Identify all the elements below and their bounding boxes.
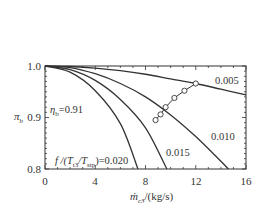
ytick-label-0.8: 0.8 (27, 163, 41, 175)
curve-0.020 (45, 66, 138, 169)
marker-circle (163, 105, 168, 110)
y-axis-label: πb (14, 110, 24, 125)
curve-label-0.010: 0.010 (211, 131, 235, 142)
curve-label-0.015: 0.015 (166, 147, 190, 158)
xtick-label-12: 12 (191, 175, 202, 187)
param-annotation: f /(Tt3/Tstp)=0.020 (55, 155, 128, 169)
xtick-label-16: 16 (241, 175, 253, 187)
xtick-label-0: 0 (42, 175, 48, 187)
ytick-label-0.9: 0.9 (27, 111, 41, 123)
marker-circle (158, 112, 163, 117)
ytick-label-1.0: 1.0 (27, 60, 41, 72)
chart: 1.0 0.9 0.8 0 4 8 12 16 πb ṁc3/(kg/s) ηb… (0, 0, 260, 209)
xtick-label-8: 8 (143, 175, 149, 187)
xtick-label-4: 4 (92, 175, 98, 187)
marker-circle (182, 88, 187, 93)
marker-circle (193, 81, 198, 86)
curve-label-0.005: 0.005 (215, 75, 239, 86)
curve-0.015 (45, 66, 167, 169)
curve-0.010 (45, 66, 228, 169)
operating-line-markers (153, 81, 198, 123)
eta-annotation: ηb=0.91 (50, 104, 83, 118)
marker-circle (172, 95, 177, 100)
x-axis-label: ṁc3/(kg/s) (130, 190, 174, 205)
marker-circle (153, 117, 158, 122)
